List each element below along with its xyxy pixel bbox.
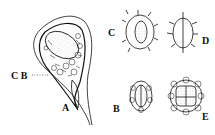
botanical-figure [0,0,215,135]
panel-label-a: A [62,103,69,113]
panel-b-drawing [130,81,153,113]
panel-e-drawing [168,77,204,115]
panel-label-c: C [108,28,115,38]
panel-c-drawing [122,10,158,52]
panel-d-drawing [167,12,198,53]
panel-label-b: B [113,104,120,114]
panel-label-d: D [202,36,209,46]
panel-label-e: E [202,112,209,122]
callout-label-cb: C B [11,71,27,81]
